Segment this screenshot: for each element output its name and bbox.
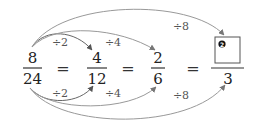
bottom-op-div8: ÷8 bbox=[173, 89, 189, 102]
equals-sign: = bbox=[186, 59, 199, 78]
arrow-bottom-div4 bbox=[30, 87, 156, 106]
number-badge-label: 2 bbox=[220, 41, 224, 48]
fraction-blank-3: 2 3 bbox=[211, 37, 244, 88]
denominator: 6 bbox=[153, 70, 163, 88]
bottom-op-div2: ÷2 bbox=[52, 87, 68, 100]
answer-box[interactable] bbox=[215, 37, 240, 63]
denominator: 12 bbox=[87, 70, 106, 88]
numerator: 2 bbox=[153, 49, 163, 67]
denominator: 24 bbox=[23, 70, 42, 88]
equals-sign: = bbox=[121, 59, 134, 78]
numerator: 8 bbox=[28, 49, 38, 67]
top-op-div4: ÷4 bbox=[105, 36, 121, 49]
bottom-op-div4: ÷4 bbox=[105, 87, 121, 100]
top-op-div8: ÷8 bbox=[173, 20, 189, 33]
fraction-4-12: 4 12 bbox=[87, 49, 107, 88]
denominator: 3 bbox=[223, 70, 233, 88]
top-op-div2: ÷2 bbox=[52, 36, 68, 49]
numerator: 4 bbox=[92, 49, 102, 67]
equivalent-fractions-diagram: ÷2 ÷4 ÷8 ÷2 ÷4 ÷8 8 24 = 4 12 = 2 6 = 2 … bbox=[0, 0, 258, 126]
arrow-top-div4 bbox=[32, 31, 155, 50]
fraction-8-24: 8 24 bbox=[23, 49, 42, 88]
equals-sign: = bbox=[56, 59, 69, 78]
fraction-2-6: 2 6 bbox=[151, 49, 165, 88]
